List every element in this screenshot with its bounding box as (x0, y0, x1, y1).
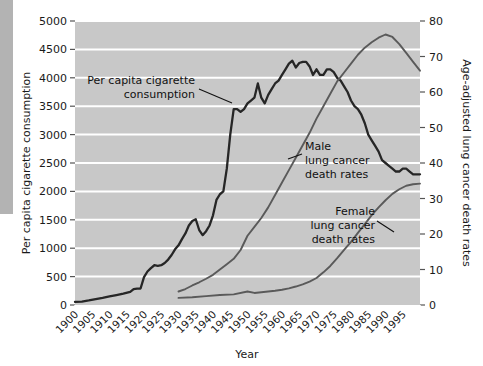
chart-figure: 0500100015002000250030003500400045005000… (0, 0, 483, 366)
y-axis-left-tick-label: 3000 (39, 129, 67, 142)
y-axis-right-tick-label: 0 (429, 299, 436, 312)
y-axis-right-tick-label: 50 (429, 122, 443, 135)
y-axis-right-tick-label: 10 (429, 264, 443, 277)
male-annotation-line-3: death rates (305, 168, 369, 181)
y-axis-left-tick-label: 5000 (39, 15, 67, 28)
lung-cancer-cigarette-chart: 0500100015002000250030003500400045005000… (0, 0, 483, 366)
y-axis-left: 0500100015002000250030003500400045005000 (39, 15, 75, 312)
y-axis-left-tick-label: 4000 (39, 72, 67, 85)
male-annotation-line-1: Male (305, 140, 331, 153)
y-axis-right-title: Age-adjusted lung cancer death rates (460, 59, 473, 267)
y-axis-right-tick-label: 60 (429, 86, 443, 99)
y-axis-left-tick-label: 2000 (39, 185, 67, 198)
y-axis-right-tick-label: 30 (429, 193, 443, 206)
y-axis-right-tick-label: 20 (429, 228, 443, 241)
x-axis-title: Year (234, 348, 259, 361)
female-annotation-line-2: lung cancer (310, 219, 375, 232)
y-axis-right-tick-label: 40 (429, 157, 443, 170)
y-axis-left-tick-label: 0 (60, 299, 67, 312)
female-annotation-line-1: Female (335, 205, 375, 218)
y-axis-left-tick-label: 1500 (39, 214, 67, 227)
y-axis-left-title: Per capita cigarette consumption (20, 72, 33, 254)
y-axis-left-tick-label: 3500 (39, 100, 67, 113)
y-axis-right-tick-label: 70 (429, 51, 443, 64)
cigarette-annotation-line-2: consumption (124, 88, 195, 101)
male-annotation-line-2: lung cancer (305, 154, 370, 167)
y-axis-right: 01020304050607080 (420, 15, 443, 312)
x-axis: 1900190519101915192019251930193519401945… (53, 305, 420, 335)
cigarette-annotation-line-1: Per capita cigarette (87, 74, 195, 87)
y-axis-left-tick-label: 500 (46, 271, 67, 284)
y-axis-left-tick-label: 2500 (39, 157, 67, 170)
y-axis-left-tick-label: 4500 (39, 43, 67, 56)
female-annotation-line-3: death rates (312, 233, 376, 246)
y-axis-left-tick-label: 1000 (39, 242, 67, 255)
y-axis-right-tick-label: 80 (429, 15, 443, 28)
